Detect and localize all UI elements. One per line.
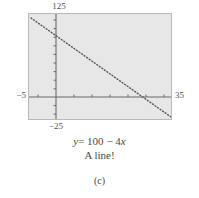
equation-rhs-variable: x: [121, 135, 126, 147]
plot-canvas: [29, 14, 172, 120]
y-axis-max-label: 125: [44, 1, 74, 11]
figure-letter-label: (c): [0, 175, 199, 186]
equation-text: y= 100 − 4x: [0, 135, 199, 148]
plot-area: [28, 13, 172, 120]
equation-operator: = 100: [78, 135, 106, 147]
function-curve: [31, 18, 171, 117]
y-axis-min-label: −25: [41, 121, 71, 131]
x-axis-max-label: 35: [175, 90, 199, 100]
x-axis-min-label: −5: [2, 90, 26, 100]
equation-minus-term: − 4: [106, 135, 120, 147]
figure-caption: y= 100 − 4x A line!: [0, 135, 199, 162]
figure-panel: 125 −25 −5 35 y= 100 − 4x A line! (c): [0, 0, 199, 198]
figure-subtitle: A line!: [0, 149, 199, 162]
